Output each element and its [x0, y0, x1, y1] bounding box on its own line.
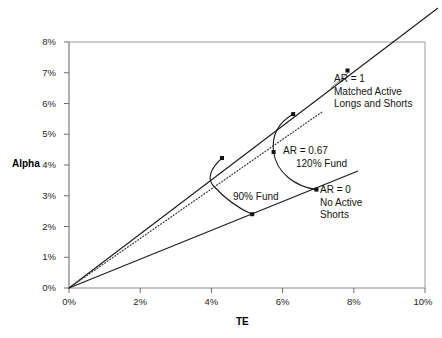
marker-fund120-ar1	[291, 112, 295, 116]
x-axis-title: TE	[236, 316, 249, 327]
series-ar067-ray	[69, 112, 322, 288]
x-tick-label-10: 10%	[403, 296, 442, 307]
ar-067-annotation: AR = 0.67 120% Fund	[283, 145, 347, 170]
y-tick-label-0: 0%	[22, 282, 56, 293]
y-tick-label-2: 2%	[22, 221, 56, 232]
y-tick-label-6: 6%	[22, 98, 56, 109]
x-tick-label-6: 6%	[263, 296, 303, 307]
ar-0-annotation-line-1: AR = 0	[320, 184, 362, 197]
ar-0-annotation-line-3: Shorts	[320, 209, 362, 222]
ar-0-annotation: AR = 0 No Active Shorts	[320, 184, 362, 222]
ar-067-annotation-line-1: AR = 0.67	[283, 145, 347, 158]
x-tick-label-4: 4%	[191, 296, 231, 307]
y-tick-label-7: 7%	[22, 67, 56, 78]
fund-90-annotation-line-1: 90% Fund	[233, 191, 279, 204]
chart-container: 8% 7% 6% 5% 4% 3% 2% 1% 0% Alpha 0% 2% 4…	[0, 0, 442, 338]
marker-ar0	[314, 188, 318, 192]
ar-0-annotation-line-2: No Active	[320, 197, 362, 210]
ar-1-annotation: AR = 1 Matched Active Longs and Shorts	[334, 73, 412, 111]
fund-90-annotation: 90% Fund	[233, 191, 279, 204]
marker-fund90-ar067	[220, 156, 224, 160]
y-axis-ticks	[64, 42, 69, 288]
x-tick-label-2: 2%	[120, 296, 160, 307]
y-tick-label-1: 1%	[22, 251, 56, 262]
y-tick-label-5: 5%	[22, 128, 56, 139]
y-axis-title: Alpha	[12, 158, 40, 169]
ar-1-annotation-line-1: AR = 1	[334, 73, 412, 86]
chart-plot-svg	[0, 0, 442, 338]
y-tick-label-8: 8%	[22, 36, 56, 47]
ar-067-annotation-line-2: 120% Fund	[296, 158, 347, 171]
x-tick-label-0: 0%	[49, 296, 89, 307]
ar-1-annotation-line-2: Matched Active	[334, 86, 412, 99]
series-ar1-ray	[69, 8, 438, 288]
series-fund90-arc	[210, 158, 252, 214]
x-tick-label-8: 8%	[334, 296, 374, 307]
marker-fund90-ar0	[250, 212, 254, 216]
y-tick-label-3: 3%	[22, 190, 56, 201]
x-axis-ticks	[69, 288, 425, 293]
marker-ar1-top	[346, 69, 350, 73]
ar-1-annotation-line-3: Longs and Shorts	[334, 98, 412, 111]
marker-ar067	[272, 150, 276, 154]
